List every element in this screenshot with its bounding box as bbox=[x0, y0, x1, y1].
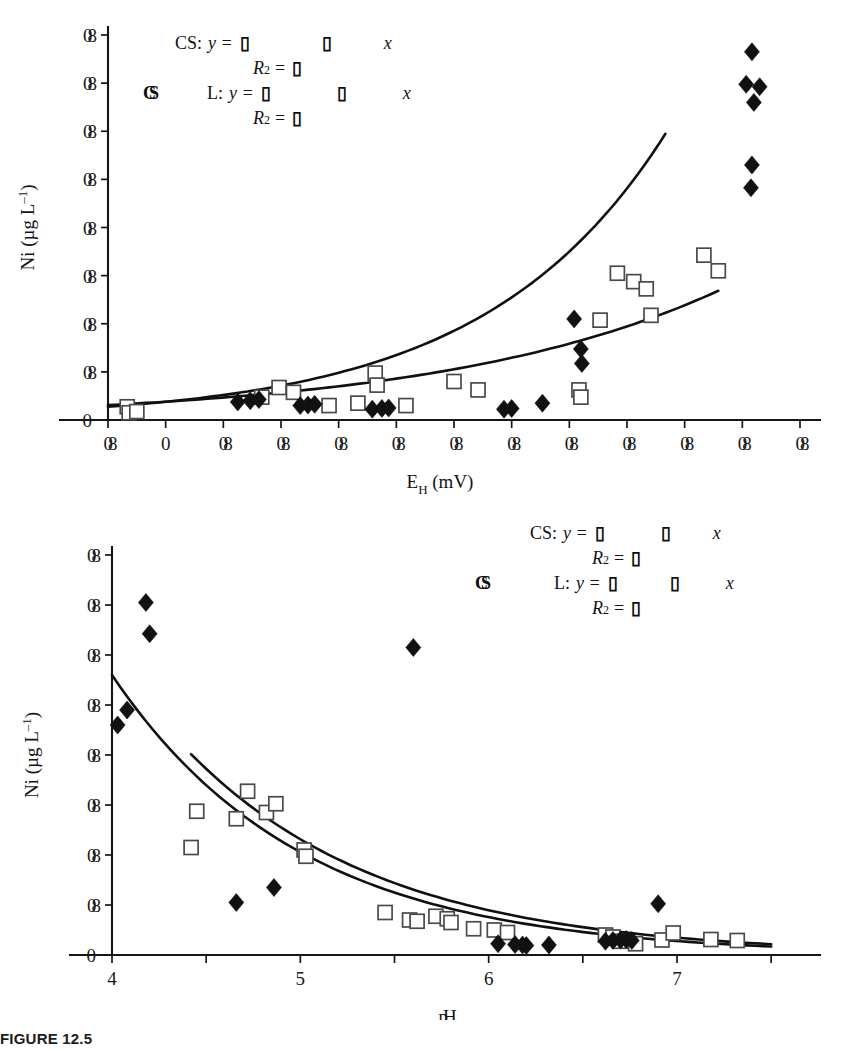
svg-eh-xtick-12: 08 bbox=[796, 433, 810, 454]
svg-eh-xtick-10: 08 bbox=[680, 433, 694, 454]
svg-eh-point-L-4 bbox=[272, 381, 286, 395]
ph-legend-cs-coef: ▯ bbox=[595, 520, 599, 546]
svg-ph-point-L-7 bbox=[299, 849, 313, 863]
eh-legend-row-l: CS L: y = ▯ ▯ x bbox=[175, 80, 411, 105]
svg-ph-point-L-5 bbox=[269, 797, 283, 811]
ph-legend-row-l-r2: R2 = ▯ bbox=[530, 595, 734, 620]
svg-ph-point-L-8 bbox=[378, 906, 392, 920]
svg-eh-point-CS-16 bbox=[739, 75, 754, 93]
svg-eh-ytick-1: 08 bbox=[83, 362, 97, 383]
ph-legend-l-mid: ▯ bbox=[670, 570, 674, 596]
eh-legend-l-eq-prefix: y = bbox=[229, 80, 254, 106]
svg-ph-ytick-2: 08 bbox=[87, 845, 101, 866]
svg-ph-point-CS-6 bbox=[266, 879, 281, 897]
figure-page: 0080808080808080808008080808080808080808… bbox=[0, 0, 844, 1051]
svg-eh-xtick-11: 08 bbox=[738, 433, 752, 454]
svg-eh-xtick-9: 08 bbox=[623, 433, 637, 454]
chart-panel-ph: 008080808080808084567pHNi (µg L–1) CS: y… bbox=[0, 500, 844, 1020]
svg-eh-point-CS-18 bbox=[746, 93, 761, 111]
svg-ph-point-L-22 bbox=[666, 926, 680, 940]
ph-legend-l-r2-value: ▯ bbox=[631, 595, 635, 621]
ph-legend-row-cs: CS: y = ▯ ▯ x bbox=[530, 520, 734, 545]
eh-legend-l-coef: ▯ bbox=[261, 80, 265, 106]
eh-legend-cs-coef: ▯ bbox=[240, 30, 244, 56]
eh-legend-l-var: x bbox=[403, 80, 411, 106]
svg-eh-point-L-18 bbox=[639, 282, 653, 296]
eh-legend-cs-eq-prefix: y = bbox=[208, 30, 233, 56]
figure-caption: FIGURE 12.5 bbox=[0, 1030, 844, 1051]
svg-eh-ytick-6: 08 bbox=[83, 121, 97, 142]
svg-eh-point-L-21 bbox=[711, 264, 725, 278]
svg-ph-point-L-2 bbox=[241, 784, 255, 798]
svg-eh-point-CS-15 bbox=[744, 43, 759, 61]
svg-eh-ytick-7: 08 bbox=[83, 73, 97, 94]
eh-legend-cs-r2-value: ▯ bbox=[292, 55, 296, 81]
ph-legend-cs-r2-label: R bbox=[592, 545, 603, 571]
eh-legend-l-label: L: bbox=[207, 80, 223, 106]
svg-eh-point-CS-20 bbox=[743, 179, 758, 197]
svg-eh-ytick-4: 08 bbox=[83, 218, 97, 239]
eh-legend-row-l-r2: R2 = ▯ bbox=[175, 105, 411, 130]
svg-eh-point-CS-19 bbox=[744, 156, 759, 174]
eh-legend-cs-r2-eq: = bbox=[275, 55, 285, 81]
svg-ph-point-L-16 bbox=[501, 926, 515, 940]
svg-eh-point-L-15 bbox=[593, 313, 607, 327]
ph-legend-l-r2-eq: = bbox=[614, 595, 624, 621]
svg-eh-point-L-19 bbox=[644, 308, 658, 322]
svg-ph-point-L-15 bbox=[487, 923, 501, 937]
svg-eh-point-L-6 bbox=[322, 399, 336, 413]
ph-legend-cs-mid: ▯ bbox=[661, 520, 665, 546]
eh-legend-cs-var: x bbox=[384, 30, 392, 56]
svg-ph-point-L-24 bbox=[730, 934, 744, 948]
svg-eh-point-L-5 bbox=[286, 385, 300, 399]
svg-eh-point-CS-12 bbox=[567, 310, 582, 328]
svg-ph-xaxis-title: pH bbox=[438, 1006, 457, 1020]
svg-ph-ytick-5: 08 bbox=[87, 695, 101, 716]
svg-eh-ytick-5: 08 bbox=[83, 169, 97, 190]
svg-ph-point-CS-17 bbox=[651, 895, 666, 913]
svg-eh-xtick-1: 0 bbox=[161, 433, 171, 454]
ph-legend: CS: y = ▯ ▯ x R2 = ▯ CS L: y = ▯ ▯ x R2 bbox=[530, 520, 734, 620]
svg-eh-xtick-5: 08 bbox=[392, 433, 406, 454]
ph-legend-cs-r2-eq: = bbox=[614, 545, 624, 571]
svg-eh-point-L-14 bbox=[574, 390, 588, 404]
ph-legend-l-coef: ▯ bbox=[608, 570, 612, 596]
svg-eh-ytick-3: 08 bbox=[83, 266, 97, 287]
ph-legend-cs-r2-value: ▯ bbox=[631, 545, 635, 571]
eh-legend-row-cs: CS: y = ▯ ▯ x bbox=[175, 30, 411, 55]
svg-ph-ytick-0: 0 bbox=[87, 945, 97, 966]
eh-legend-cs-mid: ▯ bbox=[322, 30, 326, 56]
eh-chart-svg: 0080808080808080808008080808080808080808… bbox=[0, 0, 844, 500]
svg-ph-ytick-7: 08 bbox=[87, 595, 101, 616]
svg-eh-point-CS-11 bbox=[535, 394, 550, 412]
svg-eh-point-CS-17 bbox=[752, 78, 767, 96]
svg-ph-xtick-4: 6 bbox=[484, 968, 494, 989]
svg-ph-point-CS-0 bbox=[138, 594, 153, 612]
svg-ph-point-CS-1 bbox=[142, 625, 157, 643]
svg-eh-point-CS-14 bbox=[574, 354, 589, 372]
svg-eh-yaxis-title: Ni (µg L–1) bbox=[15, 184, 39, 270]
svg-ph-xtick-2: 5 bbox=[296, 968, 306, 989]
chart-panel-eh: 0080808080808080808008080808080808080808… bbox=[0, 0, 844, 500]
svg-eh-xtick-0: 08 bbox=[104, 433, 118, 454]
svg-ph-xtick-0: 4 bbox=[107, 968, 117, 989]
svg-eh-xtick-8: 08 bbox=[565, 433, 579, 454]
svg-eh-xaxis-title: EH (mV) bbox=[407, 471, 474, 497]
svg-ph-ytick-6: 08 bbox=[87, 645, 101, 666]
eh-legend-l-r2-label: R bbox=[253, 105, 264, 131]
svg-ph-point-L-0 bbox=[190, 804, 204, 818]
svg-ph-yaxis-title: Ni (µg L–1) bbox=[19, 712, 43, 798]
ph-legend-cs-eq-prefix: y = bbox=[563, 520, 588, 546]
svg-eh-xtick-3: 08 bbox=[277, 433, 291, 454]
svg-ph-point-L-14 bbox=[467, 922, 481, 936]
svg-eh-xtick-6: 08 bbox=[450, 433, 464, 454]
ph-legend-series-tag-cs: CS bbox=[475, 570, 484, 596]
eh-legend-row-cs-r2: R2 = ▯ bbox=[175, 55, 411, 80]
svg-eh-point-L-9 bbox=[370, 378, 384, 392]
svg-eh-xtick-7: 08 bbox=[507, 433, 521, 454]
svg-eh-point-L-10 bbox=[399, 399, 413, 413]
eh-legend: CS: y = ▯ ▯ x R2 = ▯ CS L: y = ▯ ▯ x R2 bbox=[175, 30, 411, 130]
eh-legend-l-mid: ▯ bbox=[337, 80, 341, 106]
svg-ph-xtick-6: 7 bbox=[672, 968, 682, 989]
svg-eh-ytick-0: 0 bbox=[83, 410, 93, 431]
